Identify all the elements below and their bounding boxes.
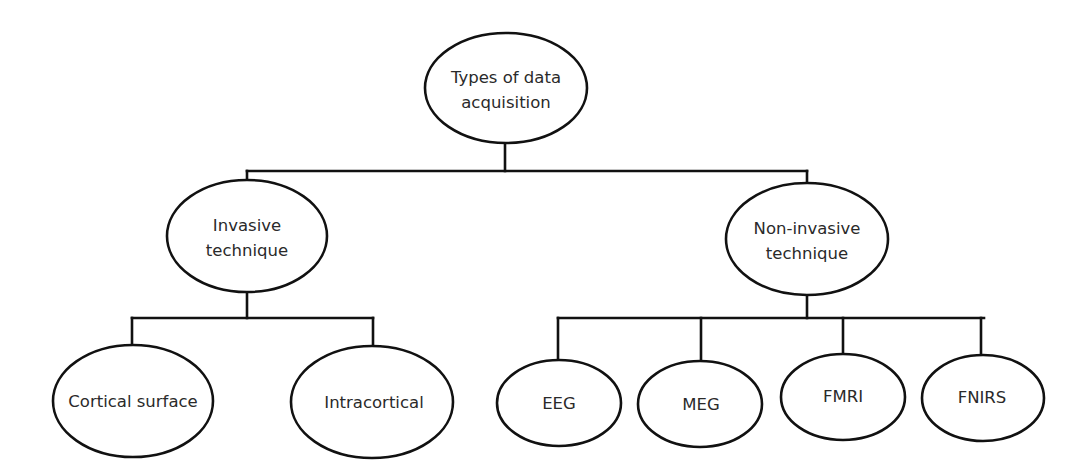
root-label-line-2: acquisition [461, 93, 551, 112]
cortical-surface-label: Cortical surface [68, 392, 197, 411]
node-eeg: EEG [497, 360, 621, 446]
node-cortical-surface: Cortical surface [53, 345, 213, 457]
connectors-root [247, 143, 807, 184]
root-label-line-1: Types of data [450, 68, 561, 87]
eeg-label: EEG [542, 394, 576, 413]
node-fnirs: FNIRS [922, 355, 1044, 441]
node-invasive-technique: Invasive technique [167, 180, 327, 292]
root-ellipse [425, 33, 587, 143]
node-noninvasive-technique: Non-invasive technique [726, 183, 888, 295]
invasive-label-line-2: technique [206, 241, 288, 260]
connectors-noninvasive [558, 295, 984, 362]
node-root: Types of data acquisition [425, 33, 587, 143]
node-fmri: FMRI [781, 354, 905, 440]
meg-label: MEG [682, 395, 719, 414]
tree-diagram: Types of data acquisition Invasive techn… [0, 0, 1092, 473]
node-meg: MEG [638, 361, 762, 447]
noninvasive-ellipse [726, 183, 888, 295]
fnirs-label: FNIRS [958, 388, 1007, 407]
connectors-invasive [132, 292, 373, 347]
noninvasive-label-line-1: Non-invasive [754, 219, 861, 238]
invasive-ellipse [167, 180, 327, 292]
node-intracortical: Intracortical [291, 346, 453, 458]
fmri-label: FMRI [823, 387, 863, 406]
intracortical-label: Intracortical [324, 393, 423, 412]
noninvasive-label-line-2: technique [766, 244, 848, 263]
invasive-label-line-1: Invasive [213, 216, 281, 235]
